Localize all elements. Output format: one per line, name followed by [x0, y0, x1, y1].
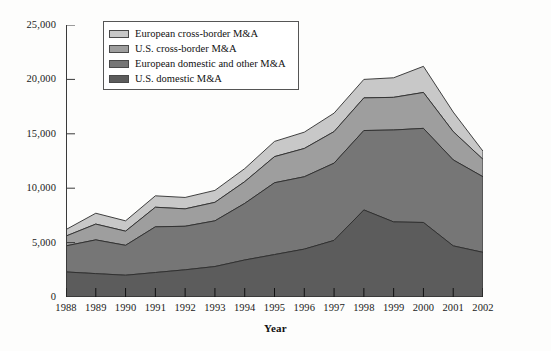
legend-item-label: European domestic and other M&A: [135, 58, 285, 69]
x-axis-tick-label: 2002: [463, 302, 503, 313]
y-axis-tick-label: 15,000: [8, 128, 56, 139]
y-axis-tick-label: 10,000: [8, 182, 56, 193]
x-axis-title: Year: [0, 322, 551, 334]
legend-item-label: U.S. domestic M&A: [135, 73, 222, 84]
legend-item: U.S. cross-border M&A: [109, 41, 293, 56]
legend-item-label: European cross-border M&A: [135, 28, 258, 39]
legend-swatch-icon: [109, 45, 129, 53]
legend-swatch-icon: [109, 30, 129, 38]
legend-swatch-icon: [109, 75, 129, 83]
y-axis-tick-label: 0: [8, 291, 56, 302]
legend-swatch-icon: [109, 60, 129, 68]
chart-legend: European cross-border M&A U.S. cross-bor…: [103, 21, 299, 90]
legend-item: U.S. domestic M&A: [109, 71, 293, 86]
stacked-area-series-group: [66, 66, 483, 297]
y-axis-tick-label: 20,000: [8, 73, 56, 84]
y-axis-tick-label: 25,000: [8, 19, 56, 30]
legend-item: European cross-border M&A: [109, 26, 293, 41]
legend-item: European domestic and other M&A: [109, 56, 293, 71]
y-axis-tick-label: 5,000: [8, 237, 56, 248]
legend-item-label: U.S. cross-border M&A: [135, 43, 237, 54]
chart-figure: 25,000 20,000 15,000 10,000 5,000 0 1988…: [0, 0, 551, 351]
